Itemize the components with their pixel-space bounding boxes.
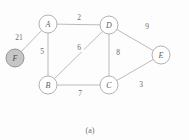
edge-weight-a-d: 2 — [77, 13, 81, 22]
graph-edge-b-d — [54, 31, 102, 78]
graph-node-b[interactable]: B — [39, 76, 57, 94]
edge-weight-f-a: 21 — [15, 33, 23, 42]
graph-node-a[interactable]: A — [39, 15, 57, 33]
edge-weight-d-e: 9 — [145, 22, 149, 31]
node-label-a: A — [45, 20, 51, 29]
edge-weight-a-b: 5 — [40, 47, 44, 56]
node-label-e: E — [158, 51, 164, 60]
node-label-f: F — [12, 54, 18, 63]
edge-weight-d-c: 8 — [116, 48, 120, 57]
node-label-b: B — [46, 81, 51, 90]
edge-weight-c-e: 3 — [139, 80, 143, 89]
graph-node-e[interactable]: E — [152, 46, 170, 64]
graph-edge-a-d — [57, 24, 100, 25]
node-label-c: C — [106, 81, 112, 90]
edge-weight-b-c: 7 — [78, 89, 82, 98]
figure-caption: (a) — [86, 126, 95, 135]
graph-node-c[interactable]: C — [100, 76, 118, 94]
graph-edge-c-e — [117, 59, 153, 80]
graph-node-f[interactable]: F — [6, 49, 24, 67]
graph-canvas: 212568793 ABCDEF (a) — [0, 0, 189, 140]
node-label-d: D — [105, 21, 112, 30]
edge-weight-b-d: 6 — [77, 43, 81, 52]
graph-figure: 212568793 ABCDEF (a) — [0, 0, 189, 140]
graph-node-d[interactable]: D — [100, 16, 118, 34]
